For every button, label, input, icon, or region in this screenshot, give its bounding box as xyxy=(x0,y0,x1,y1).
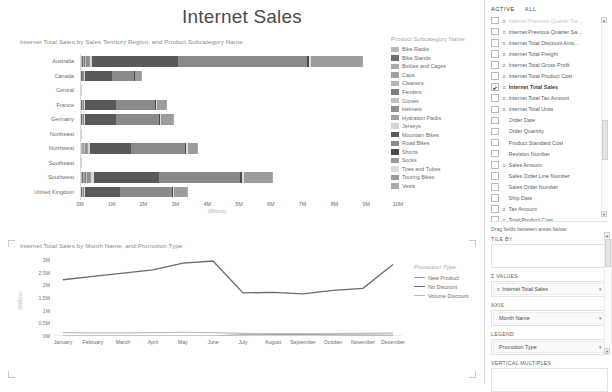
line-chart-visual[interactable]: Internet Total Sales by Month Name, and … xyxy=(8,240,476,378)
legend-item[interactable]: Bike Racks xyxy=(391,45,477,54)
well-dropzone[interactable]: Promotion Type▾ xyxy=(491,339,608,355)
chevron-down-icon[interactable]: ▾ xyxy=(599,286,602,292)
bar-segment[interactable] xyxy=(85,100,115,111)
bar-segment[interactable] xyxy=(131,143,185,154)
well-dropzone[interactable] xyxy=(491,368,608,392)
wells-scroll-up-icon[interactable]: ▲ xyxy=(604,232,610,238)
bar-segment[interactable] xyxy=(272,172,273,183)
bar-segment[interactable] xyxy=(120,187,172,198)
scrollbar-track[interactable] xyxy=(601,24,608,210)
legend-item[interactable]: Vests xyxy=(391,182,477,191)
bar-row[interactable] xyxy=(81,127,398,142)
bar-row[interactable] xyxy=(81,54,398,69)
scrollbar-thumb[interactable] xyxy=(602,120,608,160)
bar-segment[interactable] xyxy=(85,71,112,82)
bar-segment[interactable] xyxy=(157,100,167,111)
wells-scroll-down-icon[interactable]: ▼ xyxy=(604,348,610,354)
field-list-item[interactable]: ≡Internet Total Gross Profit xyxy=(489,59,608,70)
pane-tab-active[interactable]: ACTIVE xyxy=(491,6,515,12)
wells-scrollbar-thumb[interactable] xyxy=(605,239,611,267)
field-list-item[interactable]: ≡Tax Amount xyxy=(489,204,608,215)
bar-row[interactable] xyxy=(81,98,398,113)
bar-segment[interactable] xyxy=(188,143,198,154)
bar-row[interactable] xyxy=(81,185,398,200)
field-list-item[interactable]: ≡Internet Total Product Cost xyxy=(489,70,608,81)
legend-item[interactable]: Tires and Tubes xyxy=(391,165,477,174)
bar-segment[interactable] xyxy=(116,114,159,125)
bar-chart-visual[interactable]: Internet Total Sales by Sales Territory … xyxy=(8,36,476,232)
line-series[interactable] xyxy=(63,261,393,294)
field-checkbox[interactable] xyxy=(491,61,499,69)
field-list-item[interactable]: ≡Internet Total Tax Amount xyxy=(489,93,608,104)
field-list-item[interactable]: ≡Internet Total Sales xyxy=(489,82,608,93)
field-list-item[interactable]: Ship Date xyxy=(489,193,608,204)
legend-item[interactable]: Volume Discount xyxy=(414,291,490,300)
bar-segment[interactable] xyxy=(178,56,307,67)
field-checkbox[interactable] xyxy=(491,150,499,158)
scroll-up-icon[interactable]: ▲ xyxy=(601,17,607,23)
field-list-item[interactable]: ≡Internet Previous Quarter Sa... xyxy=(489,15,608,26)
field-checkbox[interactable] xyxy=(491,39,499,47)
field-checkbox[interactable] xyxy=(491,50,499,58)
line-series[interactable] xyxy=(63,332,393,333)
field-list-item[interactable]: Product Standard Cost xyxy=(489,137,608,148)
well-dropzone[interactable]: ≡Internet Total Sales▾ xyxy=(491,281,608,297)
bar-row[interactable] xyxy=(81,83,398,98)
field-checkbox[interactable] xyxy=(491,72,499,80)
well-chip[interactable]: ≡Internet Total Sales▾ xyxy=(493,283,606,295)
legend-item[interactable]: Bike Stands xyxy=(391,54,477,63)
legend-item[interactable]: Cleaners xyxy=(391,79,477,88)
field-checkbox[interactable] xyxy=(491,172,499,180)
field-list-item[interactable]: Sales Order Number xyxy=(489,181,608,192)
field-list-item[interactable]: ≡Internet Total Freight xyxy=(489,48,608,59)
bar-row[interactable] xyxy=(81,141,398,156)
chevron-down-icon[interactable]: ▾ xyxy=(599,315,602,321)
legend-item[interactable]: Hydration Packs xyxy=(391,113,477,122)
bar-segment[interactable] xyxy=(112,71,134,82)
field-list-item[interactable]: ≡Internet Total Discount Amo... xyxy=(489,37,608,48)
field-list-scrollbar[interactable]: ▲ ▼ xyxy=(601,17,607,217)
field-checkbox[interactable] xyxy=(491,161,499,169)
wells-scrollbar[interactable]: ▲ ▼ xyxy=(604,232,610,354)
legend-item[interactable]: Shorts xyxy=(391,148,477,157)
bar-row[interactable] xyxy=(81,112,398,127)
field-checkbox[interactable] xyxy=(491,17,499,25)
field-checkbox[interactable] xyxy=(491,205,499,213)
field-checkbox[interactable] xyxy=(491,94,499,102)
legend-item[interactable]: No Discount xyxy=(414,282,490,291)
bar-segment[interactable] xyxy=(90,143,131,154)
field-checkbox[interactable] xyxy=(491,139,499,147)
bar-segment[interactable] xyxy=(311,56,363,67)
legend-item[interactable]: Jerseys xyxy=(391,122,477,131)
field-checkbox[interactable] xyxy=(491,194,499,202)
bar-row[interactable] xyxy=(81,170,398,185)
legend-item[interactable]: Bottles and Cages xyxy=(391,62,477,71)
bar-segment[interactable] xyxy=(92,56,178,67)
field-checkbox[interactable] xyxy=(491,28,499,36)
bar-row[interactable] xyxy=(81,156,398,171)
bar-segment[interactable] xyxy=(94,172,159,183)
field-list-item[interactable]: Order Date xyxy=(489,115,608,126)
legend-item[interactable]: New Product xyxy=(414,273,490,282)
wells-scrollbar-track[interactable] xyxy=(604,239,612,347)
field-checkbox[interactable] xyxy=(491,117,499,125)
bar-segment[interactable] xyxy=(116,100,156,111)
legend-item[interactable]: Gloves xyxy=(391,96,477,105)
well-chip[interactable]: Month Name▾ xyxy=(493,312,606,324)
legend-item[interactable]: Touring Bikes xyxy=(391,173,477,182)
bar-row[interactable] xyxy=(81,69,398,84)
legend-item[interactable]: Socks xyxy=(391,156,477,165)
bar-segment[interactable] xyxy=(85,187,119,198)
bar-segment[interactable] xyxy=(362,56,363,67)
legend-item[interactable]: Helmets xyxy=(391,105,477,114)
bar-segment[interactable] xyxy=(244,172,272,183)
well-dropzone[interactable]: Month Name▾ xyxy=(491,310,608,326)
well-chip[interactable]: Promotion Type▾ xyxy=(493,341,606,353)
field-list-item[interactable]: Order Quantity xyxy=(489,126,608,137)
field-list[interactable]: ≡Internet Previous Quarter Sa...≡Interne… xyxy=(489,15,608,222)
line-chart-legend[interactable]: Promotion Type New ProductNo DiscountVol… xyxy=(414,264,490,300)
legend-item[interactable]: Mountain Bikes xyxy=(391,130,477,139)
bar-segment[interactable] xyxy=(197,143,198,154)
field-list-item[interactable]: Revision Number xyxy=(489,148,608,159)
field-list-item[interactable]: ≡Sales Amount xyxy=(489,159,608,170)
